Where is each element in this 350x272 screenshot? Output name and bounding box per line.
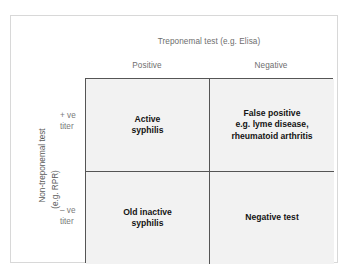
matrix-cell-active-syphilis: Active syphilis <box>86 79 210 172</box>
row-label-positive-titer: + ve titer <box>60 110 85 132</box>
matrix-cell-active-syphilis-text: Active syphilis <box>132 114 164 137</box>
figure-frame: Treponemal test (e.g. Elisa) Positive Ne… <box>10 15 338 263</box>
matrix-cell-old-inactive-syphilis-line-1: Old inactive <box>123 207 172 218</box>
row-label-negative-titer-line2: titer <box>60 217 74 226</box>
matrix-cell-old-inactive-syphilis-text: Old inactive syphilis <box>123 207 172 230</box>
matrix-cell-false-positive-line-3: rheumatoid arthritis <box>231 131 312 142</box>
results-matrix: Active syphilis False positive e.g. lyme… <box>85 78 333 263</box>
column-axis-title: Treponemal test (e.g. Elisa) <box>85 37 333 46</box>
row-axis-title-main: Non-treponemal test <box>38 96 47 236</box>
matrix-cell-active-syphilis-line-1: Active <box>132 114 164 125</box>
matrix-cell-negative-test-text: Negative test <box>245 212 299 223</box>
matrix-cell-false-positive-text: False positive e.g. lyme disease, rheuma… <box>231 108 312 142</box>
row-axis-title-sub: (e.g. RPR) <box>51 120 60 260</box>
matrix-cell-false-positive: False positive e.g. lyme disease, rheuma… <box>210 79 334 172</box>
matrix-cell-old-inactive-syphilis-line-2: syphilis <box>123 218 172 229</box>
row-label-positive-titer-line2: titer <box>60 122 74 131</box>
row-label-positive-titer-line1: + ve <box>60 111 76 120</box>
matrix-cell-old-inactive-syphilis: Old inactive syphilis <box>86 172 210 264</box>
row-axis-title: Non-treponemal test (e.g. RPR) <box>11 78 63 263</box>
row-label-negative-titer: – ve titer <box>60 205 85 227</box>
column-header-positive: Positive <box>85 61 209 70</box>
matrix-cell-false-positive-line-2: e.g. lyme disease, <box>231 119 312 130</box>
column-header-negative: Negative <box>209 61 333 70</box>
matrix-cell-negative-test-line-1: Negative test <box>245 212 299 223</box>
row-label-negative-titer-line1: – ve <box>60 206 75 215</box>
matrix-cell-negative-test: Negative test <box>210 172 334 264</box>
matrix-cell-active-syphilis-line-2: syphilis <box>132 125 164 136</box>
matrix-cell-false-positive-line-1: False positive <box>231 108 312 119</box>
